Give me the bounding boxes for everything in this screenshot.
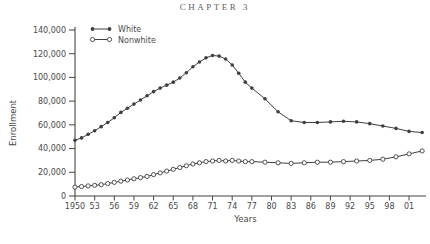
white-marker [73, 138, 77, 142]
nonwhite-marker [125, 178, 129, 182]
y-tick-label: 60,000 [38, 121, 66, 130]
nonwhite-marker [368, 158, 372, 162]
white-marker [139, 98, 143, 102]
white-marker [244, 80, 248, 84]
x-tick-label: 80 [266, 202, 276, 211]
nonwhite-marker [381, 157, 385, 161]
y-tick-label: 80,000 [38, 97, 66, 106]
white-marker [191, 65, 195, 69]
book-page: CHAPTER 3 020,00040,00060,00080,000100,0… [0, 0, 430, 244]
white-marker [276, 110, 280, 114]
white-marker [302, 121, 306, 125]
x-tick-label: 53 [90, 202, 100, 211]
white-marker [263, 97, 267, 101]
x-tick-label: 77 [247, 202, 257, 211]
x-axis-title: Years [233, 214, 257, 224]
nonwhite-marker [355, 159, 359, 163]
white-marker [178, 76, 182, 80]
nonwhite-marker [119, 179, 123, 183]
nonwhite-marker [250, 160, 254, 164]
nonwhite-marker [230, 158, 234, 162]
y-tick-label: 20,000 [38, 168, 66, 177]
white-marker [316, 121, 320, 125]
series-white [73, 54, 424, 142]
y-tick-label: 140,000 [33, 26, 66, 35]
x-tick-label: 92 [345, 202, 355, 211]
white-marker [119, 111, 123, 115]
nonwhite-marker [394, 155, 398, 159]
nonwhite-marker [328, 160, 332, 164]
nonwhite-marker [106, 181, 110, 185]
legend-open-circle-icon [107, 37, 111, 41]
white-marker [407, 130, 411, 134]
nonwhite-marker [237, 159, 241, 163]
nonwhite-marker [158, 171, 162, 175]
white-marker [99, 125, 103, 129]
y-axis-title: Enrollment [8, 99, 18, 146]
x-tick-label: 83 [286, 202, 296, 211]
white-marker [145, 94, 149, 98]
nonwhite-marker [79, 184, 83, 188]
legend-filled-circle-icon [91, 27, 95, 31]
nonwhite-marker [112, 180, 116, 184]
y-tick-label: 0 [61, 192, 66, 201]
enrollment-chart: 020,00040,00060,00080,000100,000120,0001… [0, 0, 430, 244]
white-marker [237, 71, 241, 75]
white-marker [394, 127, 398, 131]
nonwhite-marker [289, 161, 293, 165]
nonwhite-marker [197, 161, 201, 165]
nonwhite-marker [263, 160, 267, 164]
white-marker [342, 120, 346, 124]
x-tick-label: 1950 [65, 202, 85, 211]
nonwhite-marker [341, 160, 345, 164]
nonwhite-marker [191, 162, 195, 166]
nonwhite-marker [178, 165, 182, 169]
nonwhite-marker [210, 159, 214, 163]
x-tick-label: 68 [188, 202, 198, 211]
nonwhite-marker [132, 177, 136, 181]
white-marker [211, 54, 215, 58]
nonwhite-marker [276, 161, 280, 165]
white-marker [368, 122, 372, 126]
x-tick-label: 74 [227, 202, 237, 211]
white-marker [80, 136, 84, 140]
white-marker [198, 60, 202, 64]
nonwhite-marker [217, 158, 221, 162]
series-nonwhite [73, 149, 424, 189]
white-marker [126, 106, 130, 110]
x-tick-label: 95 [365, 202, 375, 211]
nonwhite-marker [184, 164, 188, 168]
nonwhite-marker [99, 183, 103, 187]
nonwhite-marker [243, 160, 247, 164]
x-tick-label: 65 [168, 202, 178, 211]
white-marker [152, 90, 156, 94]
legend-label: White [118, 25, 141, 34]
white-marker [171, 80, 175, 84]
nonwhite-marker [145, 174, 149, 178]
x-tick-label: 98 [384, 202, 394, 211]
nonwhite-marker [224, 159, 228, 163]
nonwhite-marker [407, 152, 411, 156]
nonwhite-marker [165, 169, 169, 173]
nonwhite-marker [315, 160, 319, 164]
x-tick-label: 01 [404, 202, 414, 211]
legend-label: Nonwhite [118, 36, 156, 45]
white-marker [420, 131, 424, 135]
nonwhite-marker [138, 176, 142, 180]
white-marker [250, 86, 254, 90]
white-marker [381, 124, 385, 128]
legend: WhiteNonwhite [90, 25, 156, 45]
nonwhite-marker [302, 161, 306, 165]
white-marker [132, 102, 136, 106]
nonwhite-marker [152, 173, 156, 177]
y-tick-label: 120,000 [33, 50, 66, 59]
white-marker [204, 56, 208, 60]
legend-open-circle-icon [90, 37, 94, 41]
white-marker [289, 119, 293, 123]
series-white-line [75, 55, 422, 140]
y-tick-label: 40,000 [38, 144, 66, 153]
white-marker [329, 120, 333, 124]
nonwhite-marker [93, 183, 97, 187]
nonwhite-marker [204, 160, 208, 164]
x-tick-label: 89 [325, 202, 335, 211]
